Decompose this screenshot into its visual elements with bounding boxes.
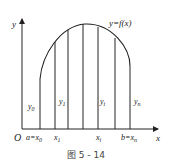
- tick-xi: xi: [95, 133, 102, 143]
- tick-a-x0: a=x0: [26, 133, 42, 143]
- tick-x1: x1: [53, 133, 61, 143]
- ordinate-yn: yn: [133, 97, 141, 107]
- y-axis-label: y: [11, 19, 16, 29]
- tick-b-xn: b=xn: [121, 133, 137, 143]
- curve-f-x: [40, 24, 130, 79]
- origin-label: O: [14, 132, 21, 143]
- figure-caption: 图 5 - 14: [67, 150, 105, 160]
- ordinate-y0: y0: [27, 102, 35, 112]
- curve-label: y=f(x): [108, 18, 132, 28]
- area-under-curve-diagram: y=f(x) y x O a=x0 x1 xi b=xn y0 y1 yi yn…: [0, 0, 172, 167]
- x-axis-label: x: [155, 133, 160, 143]
- ordinate-lines: [40, 24, 130, 129]
- ordinate-y1: y1: [58, 97, 66, 107]
- ordinate-yi: yi: [99, 97, 106, 107]
